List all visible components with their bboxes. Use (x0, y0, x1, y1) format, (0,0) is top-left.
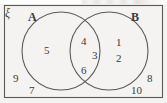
set-label-a: A (28, 11, 37, 23)
element-outside-7: 7 (29, 85, 35, 96)
element-b-only-2: 2 (116, 53, 122, 64)
element-a-only-5: 5 (44, 45, 50, 56)
element-b-only-1: 1 (116, 37, 122, 48)
element-outside-8: 8 (147, 73, 153, 84)
venn-diagram: ξ A B 5 4 3 6 1 2 9 7 8 10 (0, 0, 167, 103)
element-intersection-3: 3 (92, 50, 98, 61)
element-intersection-6: 6 (81, 65, 87, 76)
element-outside-9: 9 (13, 73, 19, 84)
universal-set-label: ξ (5, 7, 10, 19)
element-outside-10: 10 (131, 85, 142, 96)
element-intersection-4: 4 (81, 36, 87, 47)
set-label-b: B (131, 11, 139, 23)
